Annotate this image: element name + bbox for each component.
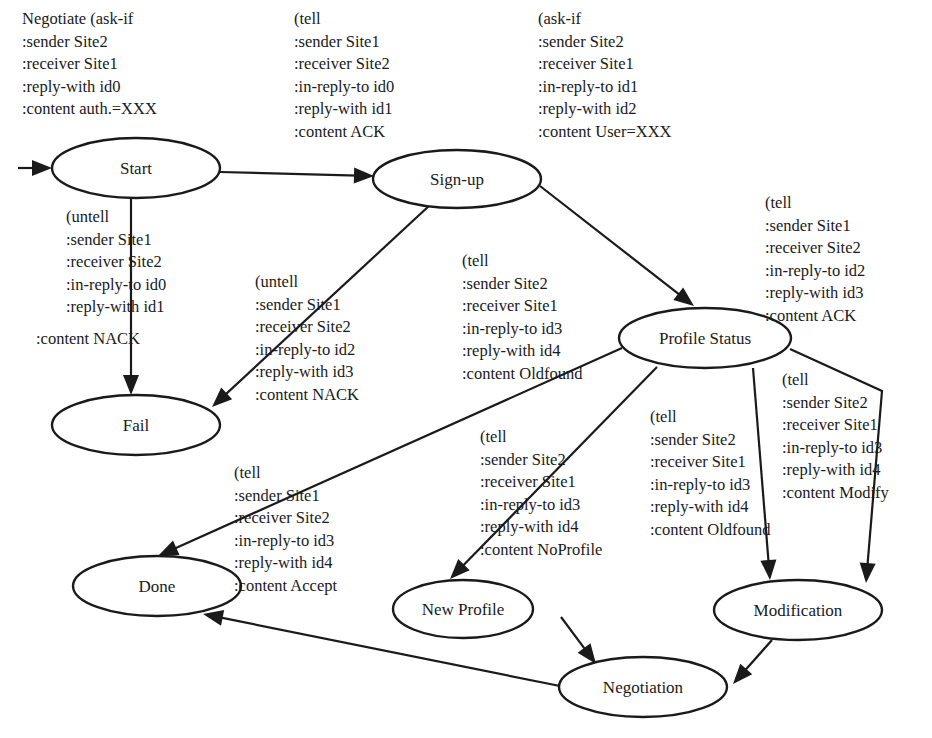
state-node-done: Done (73, 556, 241, 616)
edge-line (220, 172, 358, 176)
message-line: :receiver Site2 (255, 316, 359, 339)
message-line: Negotiate (ask-if (22, 8, 157, 31)
message-line: :receiver Site2 (294, 53, 394, 76)
state-node-modification: Modification (714, 580, 882, 640)
message-line: :sender Site2 (22, 31, 157, 54)
message-msg-noprofile: (tell:sender Site2:receiver Site1:in-rep… (480, 426, 602, 561)
message-msg-accept: (tell:sender Site1:receiver Site2:in-rep… (234, 462, 337, 597)
message-line: :in-reply-to id1 (538, 76, 671, 99)
message-line: :sender Site1 (66, 229, 166, 252)
state-label: Sign-up (430, 170, 484, 189)
state-label: Profile Status (659, 329, 751, 348)
arrowhead-icon (354, 167, 374, 183)
edge-newprofile-negotiation (561, 617, 596, 664)
message-line: :sender Site1 (234, 485, 337, 508)
message-line: :reply-with id0 (22, 76, 157, 99)
edge-start-signup (220, 167, 374, 183)
message-line: :sender Site2 (650, 429, 771, 452)
message-line: :in-reply-to id3 (234, 530, 337, 553)
message-line: (tell (480, 426, 602, 449)
message-line: (tell (650, 406, 771, 429)
message-line: :content Accept (234, 575, 337, 598)
message-line: :in-reply-to id0 (66, 274, 166, 297)
message-line: :sender Site2 (538, 31, 671, 54)
state-node-start: Start (52, 138, 220, 198)
message-line: :content Modify (782, 482, 889, 505)
message-line: :receiver Site2 (66, 251, 166, 274)
message-line: :content NoProfile (480, 539, 602, 562)
message-line: :reply-with id2 (538, 98, 671, 121)
message-msg-ack-profile: (tell:sender Site1:receiver Site2:in-rep… (765, 192, 865, 327)
state-label: Done (139, 577, 176, 596)
message-msg-ack-signup: (tell:sender Site1:receiver Site2:in-rep… (294, 8, 394, 143)
message-line: :in-reply-to id3 (480, 494, 602, 517)
message-line: (untell (66, 206, 166, 229)
message-line: :sender Site1 (255, 294, 359, 317)
message-line: :in-reply-to id2 (765, 260, 865, 283)
message-line: (tell (234, 462, 337, 485)
message-line: :reply-with id4 (234, 552, 337, 575)
message-line: :content NACK (255, 384, 359, 407)
arrowhead-icon (673, 287, 694, 306)
message-line: (tell (294, 8, 394, 31)
message-line: (tell (782, 369, 889, 392)
message-line: :content auth.=XXX (22, 98, 157, 121)
message-line: :sender Site1 (294, 31, 394, 54)
message-line: :sender Site2 (782, 392, 889, 415)
message-line: :reply-with id3 (255, 361, 359, 384)
message-line: :content User=XXX (538, 121, 671, 144)
message-line: :in-reply-to id3 (650, 474, 771, 497)
arrowhead-icon (32, 160, 52, 176)
arrowhead-icon (203, 610, 224, 626)
message-line: :receiver Site2 (234, 507, 337, 530)
message-line: (tell (462, 250, 583, 273)
message-line: :reply-with id4 (480, 516, 602, 539)
message-line: :content Oldfound (650, 519, 771, 542)
message-line: :receiver Site1 (480, 471, 602, 494)
arrowhead-icon (158, 541, 180, 556)
state-label: Start (120, 159, 152, 178)
message-line: :content ACK (294, 121, 394, 144)
message-line: :in-reply-to id3 (462, 318, 583, 341)
message-line: :receiver Site2 (765, 237, 865, 260)
edge-modification-negotiation (733, 640, 772, 684)
message-line: :reply-with id4 (462, 340, 583, 363)
message-line: :sender Site2 (480, 449, 602, 472)
arrowhead-icon (578, 643, 596, 664)
state-label: Fail (123, 416, 150, 435)
message-line: :receiver Site1 (462, 295, 583, 318)
state-node-fail: Fail (52, 395, 220, 455)
message-line: (ask-if (538, 8, 671, 31)
edge-entry-start (18, 160, 52, 176)
message-msg-oldfound-mod: (tell:sender Site2:receiver Site1:in-rep… (650, 406, 771, 541)
message-line: :sender Site1 (765, 215, 865, 238)
message-msg-modify: (tell:sender Site2:receiver Site1:in-rep… (782, 369, 889, 504)
message-line: :receiver Site1 (538, 53, 671, 76)
edge-line (561, 617, 586, 651)
message-line: (tell (765, 192, 865, 215)
state-label: Modification (754, 601, 843, 620)
message-msg-nack-signup: (untell:sender Site1:receiver Site2:in-r… (255, 271, 359, 406)
message-line: :reply-with id4 (650, 496, 771, 519)
message-line: :content ACK (765, 305, 865, 328)
message-line: (untell (255, 271, 359, 294)
state-node-signup: Sign-up (373, 150, 541, 208)
message-msg-ask-user: (ask-if:sender Site2:receiver Site1:in-r… (538, 8, 671, 143)
arrowhead-icon (860, 562, 876, 583)
message-line: :in-reply-to id0 (294, 76, 394, 99)
message-line: :receiver Site1 (782, 414, 889, 437)
message-line: :reply-with id1 (66, 296, 166, 319)
edge-line (744, 640, 772, 672)
arrowhead-icon (760, 559, 776, 580)
message-line: :in-reply-to id2 (255, 339, 359, 362)
message-msg-oldfound-done: (tell:sender Site2:receiver Site1:in-rep… (462, 250, 583, 385)
message-line: :sender Site2 (462, 273, 583, 296)
state-label: New Profile (422, 600, 505, 619)
arrowhead-icon (123, 375, 139, 395)
state-node-negotiation: Negotiation (559, 657, 727, 717)
state-node-new_profile: New Profile (393, 580, 533, 638)
message-line: :receiver Site1 (650, 451, 771, 474)
message-line: :receiver Site1 (22, 53, 157, 76)
message-line: :reply-with id1 (294, 98, 394, 121)
message-line: :reply-with id3 (765, 282, 865, 305)
